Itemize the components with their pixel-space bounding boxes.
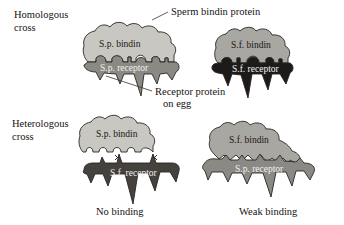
leader-line-sperm-bindin: [152, 12, 168, 20]
annotation-text-sperm-bindin: Sperm bindin protein: [171, 6, 261, 17]
leader-line-receptor-protein: [106, 76, 152, 91]
row-heterologous: Heterologous cross S.p. bindin S.f. rece…: [12, 115, 315, 217]
shape-receptor-sp-hetero: [203, 154, 315, 197]
label-bindin-sf-hetero: S.f. bindin: [229, 135, 269, 145]
row-label-heterologous-line2: cross: [12, 131, 34, 142]
mismatch-marks: [115, 155, 157, 160]
label-receptor-sp: S.p. receptor: [100, 63, 149, 73]
annotation-text-receptor-line1: Receptor protein: [155, 86, 226, 97]
annotation-receptor-protein-on-egg: Receptor protein on egg: [106, 76, 226, 109]
row-label-homologous-line1: Homologous: [14, 9, 68, 20]
label-receptor-sp-hetero: S.p. receptor: [235, 164, 284, 174]
label-bindin-sp: S.p. bindin: [99, 39, 141, 49]
annotation-sperm-bindin-protein: Sperm bindin protein: [152, 6, 261, 20]
shape-receptor-sf-hetero: [83, 154, 179, 204]
pair-sf-sp: S.f. bindin S.p. receptor Weak binding: [203, 121, 315, 217]
caption-no-binding: No binding: [96, 206, 144, 217]
annotation-text-receptor-line2: on egg: [163, 98, 192, 109]
label-receptor-sf: S.f. receptor: [232, 64, 280, 74]
caption-weak-binding: Weak binding: [239, 206, 298, 217]
pair-sp-sp: S.p. bindin S.p. receptor: [83, 22, 179, 96]
row-label-homologous-line2: cross: [14, 22, 36, 33]
row-label-heterologous-line1: Heterologous: [12, 118, 69, 129]
label-receptor-sf-hetero: S.f. receptor: [110, 168, 158, 178]
figure-canvas: Homologous cross S.p. bindin S.p. recept…: [0, 0, 344, 225]
label-bindin-sf: S.f. bindin: [231, 40, 271, 50]
label-bindin-sp-hetero: S.p. bindin: [96, 129, 138, 139]
pair-sp-sf: S.p. bindin S.f. receptor No binding: [79, 115, 179, 217]
row-homologous: Homologous cross S.p. bindin S.p. recept…: [14, 6, 293, 109]
